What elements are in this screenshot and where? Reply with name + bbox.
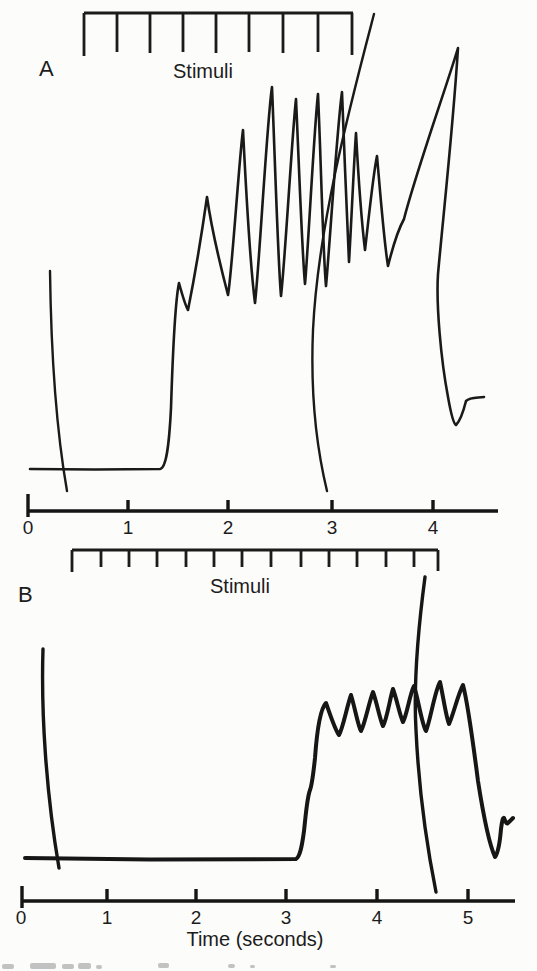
axis-a-tick-1: 1 <box>123 517 134 538</box>
axis-a-tick-2: 2 <box>223 517 234 538</box>
tetanus-myogram-figure: A Stimuli 0 1 2 3 4 B Stimuli <box>0 0 537 971</box>
pen-arc-a-right <box>312 14 374 491</box>
panel-a: A Stimuli 0 1 2 3 4 <box>23 13 498 538</box>
myogram-trace-a <box>30 48 484 470</box>
time-axis-b-title: Time (seconds) <box>186 928 323 950</box>
time-axis-a <box>27 494 498 517</box>
panel-b: B Stimuli 0 1 2 3 4 5 Time (seconds) <box>16 550 515 950</box>
axis-b-tick-4: 4 <box>372 907 383 928</box>
time-axis-a-tick-labels: 0 1 2 3 4 <box>23 517 439 538</box>
panel-a-label: A <box>39 56 54 81</box>
axis-b-tick-1: 1 <box>102 907 113 928</box>
axis-a-tick-4: 4 <box>428 517 439 538</box>
stimuli-ruler-a <box>84 13 353 56</box>
pen-arc-a-left <box>50 271 67 491</box>
axis-a-tick-0: 0 <box>23 517 34 538</box>
pen-arc-b-left <box>43 649 59 868</box>
axis-b-tick-2: 2 <box>191 907 202 928</box>
figure-canvas: A Stimuli 0 1 2 3 4 B Stimuli <box>0 0 537 971</box>
panel-b-label: B <box>18 582 33 607</box>
stimuli-ruler-b <box>72 550 438 572</box>
pen-arc-b-right <box>415 577 436 892</box>
axis-b-tick-5: 5 <box>463 907 474 928</box>
time-axis-b <box>22 886 515 908</box>
cropped-caption-fragment <box>2 963 336 969</box>
axis-a-tick-3: 3 <box>327 517 338 538</box>
axis-b-tick-3: 3 <box>281 907 292 928</box>
myogram-trace-b <box>25 682 513 860</box>
panel-b-stimuli-label: Stimuli <box>210 575 270 597</box>
panel-a-stimuli-label: Stimuli <box>173 60 233 82</box>
time-axis-b-tick-labels: 0 1 2 3 4 5 <box>16 907 474 928</box>
axis-b-tick-0: 0 <box>16 907 27 928</box>
